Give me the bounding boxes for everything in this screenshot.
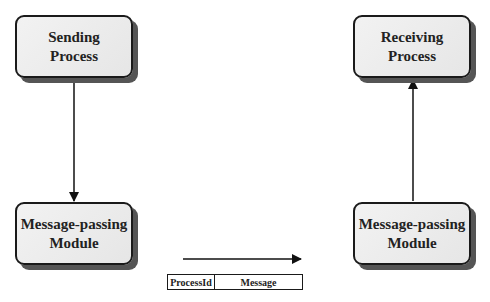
sender-message-passing-module-node: Message-passing Module bbox=[15, 202, 133, 265]
node-label-line2: Module bbox=[21, 234, 128, 253]
node-label-line1: Message-passing bbox=[359, 215, 466, 234]
receiver-message-passing-module-node: Message-passing Module bbox=[353, 202, 471, 265]
node-label-line2: Process bbox=[381, 47, 443, 66]
packet-field-processid: ProcessId bbox=[168, 275, 215, 289]
receiving-process-node: Receiving Process bbox=[353, 15, 471, 78]
node-label-line2: Module bbox=[359, 234, 466, 253]
packet-field-message: Message bbox=[215, 275, 302, 289]
node-label-line1: Sending bbox=[48, 28, 100, 47]
sending-process-node: Sending Process bbox=[15, 15, 133, 78]
node-label-line1: Receiving bbox=[381, 28, 443, 47]
node-label-line2: Process bbox=[48, 47, 100, 66]
node-label-line1: Message-passing bbox=[21, 215, 128, 234]
message-packet: ProcessId Message bbox=[167, 274, 303, 290]
